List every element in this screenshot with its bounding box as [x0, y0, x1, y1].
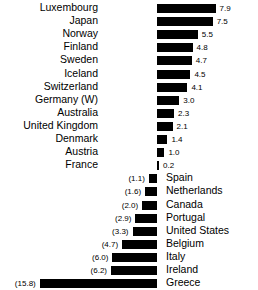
bar — [157, 109, 174, 118]
bar — [135, 214, 157, 223]
chart-row: Canada(2.0) — [0, 199, 258, 212]
value-label: 7.5 — [217, 15, 228, 28]
category-label: Denmark — [55, 132, 98, 145]
category-label: Iceland — [64, 67, 98, 80]
value-label: 4.7 — [196, 54, 207, 67]
category-label: Sweden — [60, 53, 98, 66]
bar — [157, 17, 213, 26]
bar — [122, 240, 157, 249]
value-label: 4.1 — [191, 81, 202, 94]
bar — [111, 266, 157, 275]
category-label: Italy — [166, 250, 185, 263]
value-label: (6.0) — [92, 251, 108, 264]
bar-chart: Luxembourg7.9Japan7.5Norway5.5Finland4.8… — [0, 0, 258, 290]
bar — [112, 253, 157, 262]
chart-row: United States(3.3) — [0, 225, 258, 238]
value-label: 7.9 — [220, 2, 231, 15]
bar — [157, 122, 173, 131]
value-label: (4.7) — [102, 238, 118, 251]
chart-row: Sweden4.7 — [0, 54, 258, 67]
value-label: (6.2) — [91, 264, 107, 277]
value-label: 1.0 — [168, 146, 179, 159]
category-label: Austria — [65, 145, 98, 158]
chart-row: Greece(15.8) — [0, 277, 258, 290]
category-label: Switzerland — [44, 80, 98, 93]
bar — [157, 135, 167, 144]
chart-row: Iceland4.5 — [0, 68, 258, 81]
bar — [40, 279, 157, 288]
chart-row: Ireland(6.2) — [0, 264, 258, 277]
chart-row: Italy(6.0) — [0, 251, 258, 264]
chart-row: Japan7.5 — [0, 15, 258, 28]
bar — [157, 96, 179, 105]
value-label: 0.2 — [163, 159, 174, 172]
bar — [157, 43, 193, 52]
category-label: Canada — [166, 198, 203, 211]
bar — [157, 56, 192, 65]
chart-row: Austria1.0 — [0, 146, 258, 159]
chart-row: Norway5.5 — [0, 28, 258, 41]
value-label: 4.5 — [194, 68, 205, 81]
category-label: Netherlands — [166, 184, 223, 197]
value-label: 2.1 — [177, 120, 188, 133]
chart-row: Spain(1.1) — [0, 172, 258, 185]
chart-row: United Kingdom2.1 — [0, 120, 258, 133]
bar — [149, 174, 157, 183]
category-label: France — [65, 158, 98, 171]
category-label: Japan — [69, 14, 98, 27]
value-label: 3.0 — [183, 94, 194, 107]
chart-row: Finland4.8 — [0, 41, 258, 54]
bar — [157, 70, 190, 79]
chart-row: Netherlands(1.6) — [0, 185, 258, 198]
chart-row: France0.2 — [0, 159, 258, 172]
value-label: 4.8 — [197, 41, 208, 54]
bar — [157, 148, 164, 157]
value-label: (1.1) — [128, 172, 144, 185]
chart-row: Belgium(4.7) — [0, 238, 258, 251]
category-label: Norway — [62, 27, 98, 40]
bar — [145, 187, 157, 196]
bar — [157, 161, 159, 170]
category-label: Portugal — [166, 211, 205, 224]
category-label: Finland — [64, 40, 98, 53]
chart-row: Germany (W)3.0 — [0, 94, 258, 107]
bar — [142, 201, 157, 210]
category-label: United States — [166, 224, 229, 237]
category-label: Spain — [166, 171, 193, 184]
value-label: (2.0) — [122, 199, 138, 212]
bar — [157, 4, 216, 13]
category-label: United Kingdom — [23, 119, 98, 132]
value-label: 2.3 — [178, 107, 189, 120]
category-label: Germany (W) — [35, 93, 98, 106]
chart-row: Luxembourg7.9 — [0, 2, 258, 15]
value-label: (15.8) — [15, 277, 36, 290]
chart-row: Australia2.3 — [0, 107, 258, 120]
category-label: Australia — [57, 106, 98, 119]
bar — [157, 30, 198, 39]
value-label: (2.9) — [115, 212, 131, 225]
value-label: (3.3) — [112, 225, 128, 238]
category-label: Ireland — [166, 263, 198, 276]
bar — [133, 227, 157, 236]
category-label: Belgium — [166, 237, 204, 250]
value-label: 1.4 — [171, 133, 182, 146]
chart-row: Switzerland4.1 — [0, 81, 258, 94]
category-label: Greece — [166, 276, 200, 289]
chart-row: Denmark1.4 — [0, 133, 258, 146]
chart-row: Portugal(2.9) — [0, 212, 258, 225]
value-label: 5.5 — [202, 28, 213, 41]
category-label: Luxembourg — [40, 1, 98, 14]
value-label: (1.6) — [125, 185, 141, 198]
bar — [157, 83, 187, 92]
